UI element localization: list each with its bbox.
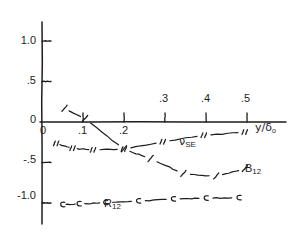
curve-label-r12-subscript: 12 xyxy=(112,202,121,211)
curve-label-r12-symbol: R xyxy=(104,197,112,209)
x-axis-label-subscript: o xyxy=(272,127,276,134)
curve-label-r12: R12 xyxy=(104,198,121,211)
y-tick-label-4: -.5 xyxy=(2,154,36,165)
y-tick-label-1: 1.0 xyxy=(2,35,36,46)
y-tick-label-3: 0 xyxy=(2,114,36,125)
x-tick-label-01: .1 xyxy=(78,125,87,136)
x-axis-label: y/δo xyxy=(255,122,276,134)
axes-layer xyxy=(40,22,286,224)
x-tick-label-03: .3 xyxy=(159,93,168,104)
x-tick-label-04: .4 xyxy=(201,93,210,104)
curve-label-b12: B12 xyxy=(245,163,261,176)
curve-label-nu-se: νSE xyxy=(179,136,196,149)
curve-label-nu-se-subscript: SE xyxy=(185,140,196,149)
y-tick-label-2: .5 xyxy=(2,75,36,86)
series-layer xyxy=(53,105,247,207)
x-tick-label-02: .2 xyxy=(119,125,128,136)
x-axis-label-text: y/δ xyxy=(255,121,272,134)
x-tick-label-05: .5 xyxy=(241,93,250,104)
x-tick-label-0: 0 xyxy=(40,125,46,136)
y-tick-label-5: -1.0 xyxy=(2,190,36,201)
chart-canvas xyxy=(0,0,292,234)
curve-label-b12-subscript: 12 xyxy=(252,167,261,176)
figure-root: 1.0 .5 0 -.5 -1.0 0 .1 .2 .3 .4 .5 y/δo … xyxy=(0,0,292,234)
